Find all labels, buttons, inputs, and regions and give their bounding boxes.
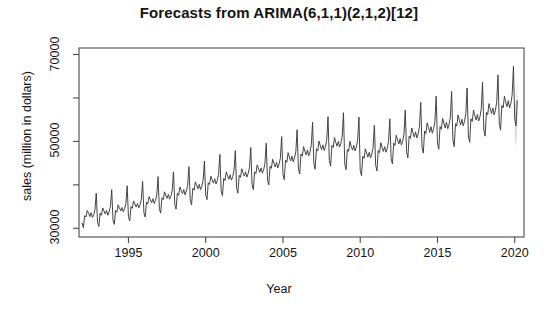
x-tick-label: 2015 bbox=[407, 246, 467, 260]
x-tick-label: 1995 bbox=[98, 246, 158, 260]
plot-area bbox=[0, 0, 558, 310]
x-tick-label: 2010 bbox=[330, 246, 390, 260]
axes bbox=[73, 48, 524, 243]
series-lines bbox=[82, 67, 517, 228]
y-tick-label: 30000 bbox=[48, 197, 62, 257]
forecast-chart-figure: Forecasts from ARIMA(6,1,1)(2,1,2)[12] s… bbox=[0, 0, 558, 310]
observed-series-line bbox=[82, 67, 513, 228]
x-tick-label: 2000 bbox=[176, 246, 236, 260]
x-tick-label: 2020 bbox=[485, 246, 545, 260]
x-tick-label: 2005 bbox=[253, 246, 313, 260]
y-tick-label: 50000 bbox=[48, 110, 62, 170]
y-tick-label: 70000 bbox=[48, 24, 62, 84]
